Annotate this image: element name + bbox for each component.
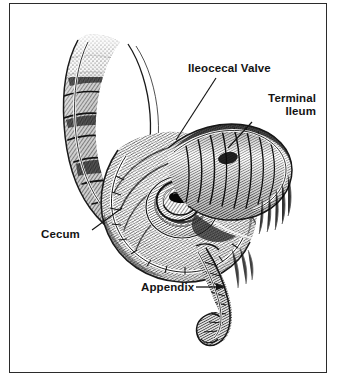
label-terminal-ileum-line1: Terminal — [268, 92, 316, 104]
label-terminal-ileum-line2: Ileum — [285, 105, 316, 117]
label-ileocecal-valve: Ileocecal Valve — [188, 62, 271, 75]
label-appendix: Appendix — [141, 281, 194, 294]
label-cecum: Cecum — [41, 228, 80, 241]
label-terminal-ileum: TerminalIleum — [240, 92, 316, 117]
ileocecal-illustration — [0, 0, 338, 380]
anatomical-figure: Ileocecal Valve TerminalIleum Cecum Appe… — [0, 0, 338, 380]
